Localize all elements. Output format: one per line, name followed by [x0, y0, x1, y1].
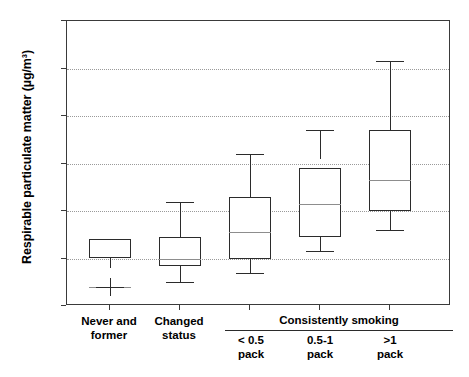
- whisker-cap-lower: [166, 282, 194, 283]
- whisker-stem-lower: [180, 266, 181, 283]
- x-category-label-never-and-former: Never and former: [70, 314, 148, 342]
- gridline-100: [67, 69, 449, 70]
- y-tick-mark-0: [61, 305, 66, 306]
- box-iqr: [159, 237, 201, 266]
- figure-caption: [0, 372, 469, 377]
- x-category-label-more-than-one-pack: >1 pack: [358, 333, 422, 361]
- x-tick-mark-5: [389, 305, 390, 310]
- boxplot-figure: Respirable particulate matter (µg/m³) 12…: [0, 0, 469, 377]
- plot-area: [66, 20, 450, 305]
- x-category-line-1: 0.5-1: [307, 334, 333, 346]
- whisker-cap-lower: [96, 287, 124, 288]
- x-category-line-1: >1: [383, 334, 396, 346]
- x-tick-mark-3: [249, 305, 250, 310]
- box-iqr: [229, 197, 271, 259]
- x-tick-mark-4: [319, 305, 320, 310]
- x-category-line-2: former: [91, 329, 127, 341]
- group-annotation-rule: [225, 330, 453, 331]
- whisker-stem-upper: [180, 202, 181, 238]
- box-iqr: [89, 239, 131, 258]
- whisker-cap-lower: [306, 251, 334, 252]
- x-category-line-1: Never and: [81, 315, 137, 327]
- x-category-line-1: < 0.5: [238, 334, 264, 346]
- whisker-stem-lower: [250, 259, 251, 273]
- whisker-stem-upper: [390, 61, 391, 130]
- group-annotation-label: Consistently smoking: [219, 314, 459, 327]
- x-category-label-half-to-one-pack: 0.5-1 pack: [288, 333, 352, 361]
- x-category-line-2: status: [162, 329, 196, 341]
- x-category-line-1: Changed: [154, 315, 203, 327]
- x-category-line-2: pack: [307, 348, 333, 360]
- whisker-cap-lower: [236, 273, 264, 274]
- box-iqr: [299, 168, 341, 237]
- whisker-stem-lower: [320, 237, 321, 251]
- group-annotation-consistently-smoking: Consistently smoking: [219, 314, 459, 327]
- gridline-80: [67, 116, 449, 117]
- gridline-20: [67, 259, 449, 260]
- median-line: [299, 204, 341, 205]
- x-category-line-2: pack: [377, 348, 403, 360]
- whisker-stem-upper: [320, 130, 321, 159]
- median-line: [369, 180, 411, 181]
- box-iqr: [369, 130, 411, 211]
- x-category-label-less-than-half-pack: < 0.5 pack: [219, 333, 283, 361]
- x-category-label-changed-status: Changed status: [140, 314, 218, 342]
- y-axis-title: Respirable particulate matter (µg/m³): [20, 12, 34, 302]
- median-line: [159, 259, 201, 260]
- x-category-line-2: pack: [238, 348, 264, 360]
- whisker-cap-lower: [376, 230, 404, 231]
- median-line: [229, 232, 271, 233]
- whisker-stem-upper: [250, 154, 251, 197]
- whisker-stem-lower: [390, 211, 391, 230]
- x-tick-mark-1: [109, 305, 110, 310]
- x-tick-mark-2: [179, 305, 180, 310]
